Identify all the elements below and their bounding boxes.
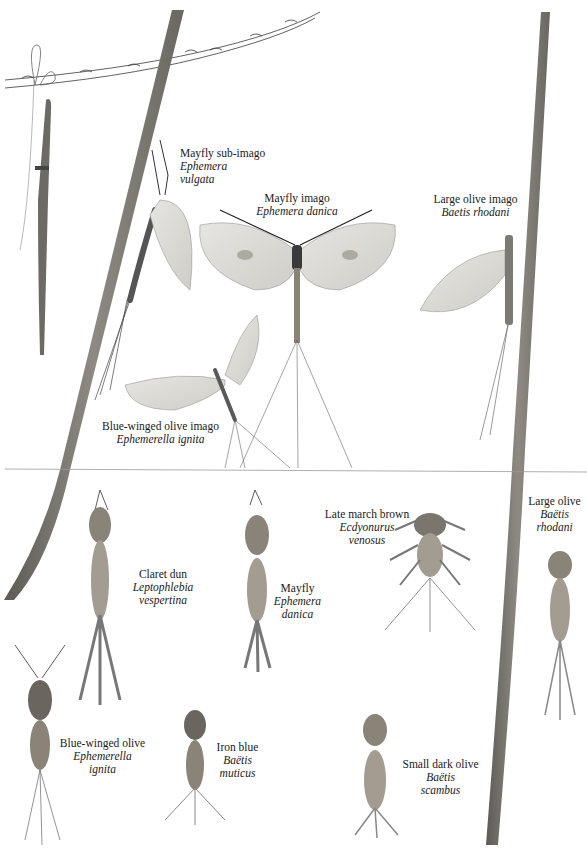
latin-name: Baëtis — [522, 508, 587, 521]
latin-name: Baetis rhodani — [428, 206, 523, 219]
reed-stem-right — [486, 12, 550, 845]
common-name: Small dark olive — [398, 758, 483, 771]
common-name: Large olive — [522, 495, 587, 508]
latin-name: Baëtis — [398, 771, 483, 784]
label-claret-dun: Claret dun Leptophlebia vespertina — [128, 568, 198, 607]
mayfly-illustration — [0, 0, 587, 850]
insect-mayfly-imago — [200, 210, 396, 468]
insect-claret-dun-nymph — [80, 490, 120, 705]
insect-small-dark-olive-nymph — [355, 714, 398, 838]
latin-name-2: scambus — [398, 784, 483, 797]
latin-name: Ephemerella — [55, 750, 150, 763]
common-name: Mayfly — [270, 582, 325, 595]
insect-large-olive-nymph — [545, 551, 575, 720]
latin-name-2: danica — [270, 608, 325, 621]
label-mayfly-imago: Mayfly imago Ephemera danica — [247, 192, 347, 218]
label-blue-winged-olive: Blue-winged olive Ephemerella ignita — [55, 737, 150, 776]
latin-name-2: rhodani — [522, 521, 587, 534]
latin-name: Ephemera — [180, 160, 265, 173]
common-name: Blue-winged olive imago — [98, 420, 223, 433]
common-name: Claret dun — [128, 568, 198, 581]
common-name: Mayfly imago — [247, 192, 347, 205]
latin-name-2: ignita — [55, 763, 150, 776]
label-large-olive-imago: Large olive imago Baetis rhodani — [428, 193, 523, 219]
label-iron-blue: Iron blue Baëtis muticus — [210, 741, 265, 780]
common-name: Blue-winged olive — [55, 737, 150, 750]
latin-name: Ephemera danica — [247, 205, 347, 218]
label-late-march-brown: Late march brown Ecdyonurus venosus — [322, 508, 412, 547]
hanging-reed — [20, 80, 51, 355]
latin-name: Baëtis — [210, 754, 265, 767]
latin-name: Ephemerella ignita — [98, 433, 223, 446]
latin-name: Ephemera — [270, 595, 325, 608]
label-mayfly-nymph: Mayfly Ephemera danica — [270, 582, 325, 621]
label-mayfly-sub-imago: Mayfly sub-imago Ephemera vulgata — [180, 147, 265, 186]
common-name: Mayfly sub-imago — [180, 147, 265, 160]
latin-name: Leptophlebia — [128, 581, 198, 594]
water-line — [5, 469, 587, 472]
latin-name: Ecdyonurus — [322, 521, 412, 534]
latin-name-2: venosus — [322, 534, 412, 547]
latin-name-2: vulgata — [180, 173, 265, 186]
common-name: Iron blue — [210, 741, 265, 754]
common-name: Late march brown — [322, 508, 412, 521]
label-blue-winged-olive-imago: Blue-winged olive imago Ephemerella igni… — [98, 420, 223, 446]
latin-name-2: vespertina — [128, 594, 198, 607]
insect-large-olive-imago — [420, 235, 513, 440]
label-large-olive: Large olive Baëtis rhodani — [522, 495, 587, 534]
latin-name-2: muticus — [210, 767, 265, 780]
common-name: Large olive imago — [428, 193, 523, 206]
label-small-dark-olive: Small dark olive Baëtis scambus — [398, 758, 483, 797]
insect-mayfly-nymph — [245, 490, 270, 672]
